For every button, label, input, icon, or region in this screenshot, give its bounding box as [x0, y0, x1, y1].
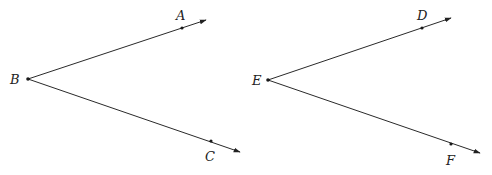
label-a: A [175, 8, 185, 23]
label-c: C [205, 149, 215, 164]
ray-ed [268, 18, 451, 80]
angles-diagram: B A C E D F [0, 0, 492, 175]
label-b: B [9, 72, 20, 87]
point-c [209, 139, 212, 142]
ray-bc [28, 79, 240, 152]
label-f: F [445, 153, 456, 168]
point-e [266, 78, 270, 82]
point-a [180, 26, 183, 29]
ray-ef [268, 80, 480, 153]
label-e: E [251, 73, 262, 88]
geometry-figure: B A C E D F [0, 0, 492, 175]
point-b [26, 77, 30, 81]
angle-abc: B A C [9, 8, 240, 164]
point-d [420, 26, 423, 29]
label-d: D [416, 8, 428, 23]
angle-def: E D F [251, 8, 480, 168]
ray-ba [28, 20, 206, 79]
point-f [449, 142, 452, 145]
